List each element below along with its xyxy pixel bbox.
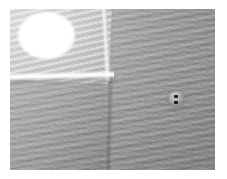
photo-frame: Close-up of a light grey woven garment s… [0,0,227,179]
button-hole-bottom [174,101,178,104]
left-panel-shading [10,77,110,170]
photograph-canvas [10,9,215,170]
button [165,88,189,112]
photo-alt-text: Close-up of a light grey woven garment s… [0,0,1,1]
white-circle-highlight [18,12,75,59]
button-hole-top [174,95,178,98]
